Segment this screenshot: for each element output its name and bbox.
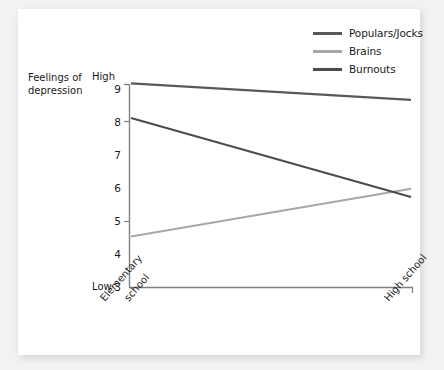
legend-item-label: Burnouts bbox=[349, 64, 396, 75]
y-tick-label-7: 7 bbox=[105, 149, 121, 161]
y-tick-label-5: 5 bbox=[105, 215, 121, 227]
chart-legend: Populars/JocksBrainsBurnouts bbox=[313, 25, 433, 79]
legend-line-swatch-icon bbox=[313, 32, 342, 35]
y-axis-title-line1: Feelings of bbox=[28, 71, 90, 84]
legend-item-brains[interactable]: Brains bbox=[313, 43, 433, 60]
y-axis-title-line2: depression bbox=[28, 84, 90, 97]
y-tick-label-4: 4 bbox=[105, 248, 121, 260]
figure-root: Feelings of depression High Low 9876543 … bbox=[0, 0, 444, 370]
legend-item-label: Brains bbox=[349, 46, 381, 57]
series-line-burnouts bbox=[131, 118, 411, 197]
legend-item-label: Populars/Jocks bbox=[349, 28, 423, 39]
y-tick-label-9: 9 bbox=[105, 83, 121, 95]
legend-line-swatch-icon bbox=[313, 50, 342, 53]
legend-item-populars-jocks[interactable]: Populars/Jocks bbox=[313, 25, 433, 42]
y-tick-label-6: 6 bbox=[105, 182, 121, 194]
legend-item-burnouts[interactable]: Burnouts bbox=[313, 61, 433, 78]
series-lines bbox=[131, 83, 411, 236]
legend-line-swatch-icon bbox=[313, 68, 342, 71]
y-tick-label-8: 8 bbox=[105, 116, 121, 128]
series-line-brains bbox=[131, 189, 411, 237]
series-line-populars-jocks bbox=[131, 83, 411, 99]
y-axis-high-label: High bbox=[92, 71, 115, 82]
y-axis-title: Feelings of depression bbox=[28, 71, 90, 97]
